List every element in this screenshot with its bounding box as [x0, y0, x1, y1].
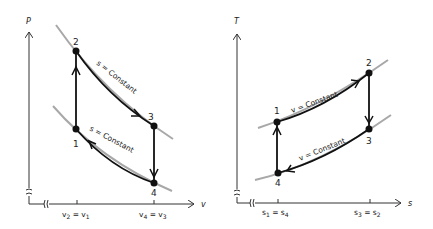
- pv-point-1: [73, 126, 80, 133]
- ts-x-axis-label: s: [408, 199, 412, 208]
- ts-y-axis-label: T: [234, 17, 240, 26]
- ts-isochoric-label-lower: v = Constant: [297, 136, 346, 163]
- pv-point-3: [151, 123, 158, 130]
- pv-diagram: P v v2 = v1 v4 = v3: [26, 17, 206, 220]
- ts-tick-label-2: s3 = s2: [354, 208, 381, 218]
- ts-point-2-label: 2: [366, 58, 372, 68]
- ts-point-1: [274, 119, 281, 126]
- ts-isochoric-label-upper: v = Constant: [290, 90, 339, 115]
- pv-point-3-label: 3: [148, 112, 154, 122]
- ts-diagram: T s s1 = s4 s3 = s2 1: [234, 17, 412, 218]
- pv-point-2: [73, 48, 80, 55]
- pv-tick-label-2: v4 = v3: [139, 210, 167, 220]
- ts-tick-label-1: s1 = s4: [262, 208, 289, 218]
- ts-x-axis: [237, 199, 401, 207]
- thermo-diagrams: P v v2 = v1 v4 = v3: [0, 0, 433, 229]
- pv-isentropic-label-upper: s = Constant: [95, 58, 139, 95]
- ts-point-3: [366, 126, 373, 133]
- pv-point-1-label: 1: [73, 139, 79, 149]
- pv-isentropic-label-lower: s = Constant: [88, 124, 135, 155]
- pv-y-axis-label: P: [26, 17, 31, 26]
- ts-point-2: [366, 70, 373, 77]
- pv-point-4: [151, 180, 158, 187]
- ts-point-1-label: 1: [274, 106, 280, 116]
- pv-point-2-label: 2: [73, 37, 79, 47]
- pv-process-2-3: [76, 51, 154, 126]
- pv-x-axis-label: v: [201, 200, 206, 209]
- pv-x-axis: [29, 200, 194, 208]
- pv-y-axis: [26, 32, 32, 204]
- pv-tick-label-1: v2 = v1: [62, 210, 90, 220]
- ts-y-axis: [234, 34, 240, 203]
- pv-point-4-label: 4: [151, 188, 157, 198]
- ts-point-3-label: 3: [366, 136, 372, 146]
- ts-point-4-label: 4: [275, 178, 281, 188]
- ts-point-4: [275, 170, 282, 177]
